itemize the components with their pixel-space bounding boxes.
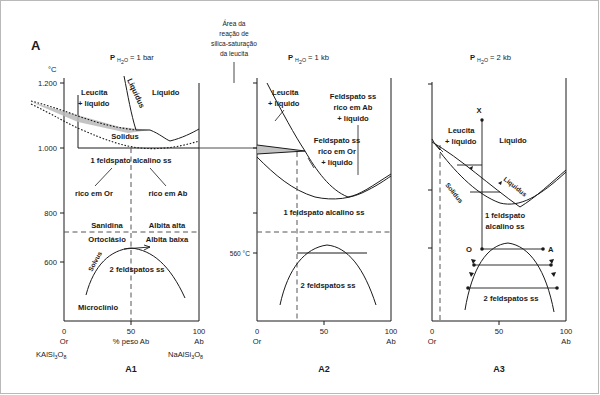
a2-label-fsp-ab-line1: Feldspato ss — [330, 92, 376, 101]
a2-caption: A2 — [318, 364, 330, 374]
a3-x-left-label-or: Or — [428, 337, 437, 346]
top-note-line-4: da leucita — [220, 50, 249, 57]
a1-y-tick-label-800: 800 — [44, 209, 57, 218]
a2-label-fsp-or-line2: rico em Or — [318, 147, 356, 156]
a2-pressure-title: P H 2 O = 1 kb — [288, 53, 329, 65]
a1-label-solidus: Solidus — [111, 132, 138, 141]
a2-pressure-sub-o: O — [302, 57, 306, 63]
a1-label-sanidina: Sanidina — [91, 221, 123, 230]
a3-tie4-left-point — [466, 286, 470, 290]
a3-label-two-feldspars: 2 feldspatos ss — [484, 294, 539, 303]
a3-x-right-label-ab: Ab — [561, 337, 570, 346]
a1-x-tick-label-100: 100 — [193, 327, 206, 336]
a3-x-tick-label-0: 0 — [430, 327, 434, 336]
a3-label-point-x: X — [476, 106, 481, 115]
a1-formula-ab-text: NaAlSi3O8 — [168, 350, 203, 360]
a1-label-ortoclasio: Ortoclásio — [88, 235, 126, 244]
a1-formula-or-text: KAlSi3O8 — [36, 350, 66, 360]
a2-label-leucita-line1: Leucita — [272, 88, 299, 97]
a1-label-albita-baixa: Albita baixa — [146, 235, 189, 244]
a1-label-rico-or: rico em Or — [75, 189, 113, 198]
a3-pressure-p: P — [470, 53, 475, 62]
a1-label-rico-ab: rico em Ab — [149, 189, 188, 198]
a3-x-tick-label-100: 100 — [560, 327, 573, 336]
a1-label-liquidus: Liquidus — [125, 77, 147, 109]
a2-leader-leucita — [275, 110, 284, 121]
a3-arrow-left-down-2 — [469, 272, 474, 277]
a3-pressure-value: = 2 kb — [490, 53, 511, 62]
a3-x-ticks: 0 50 100 Or Ab — [428, 321, 573, 346]
a1-caption: A1 — [125, 364, 137, 374]
a1-label-liquido: Líquido — [152, 88, 180, 97]
a2-label-fsp-ab-line2: rico em Ab — [334, 103, 373, 112]
figure-label: A — [31, 38, 41, 53]
a2-x-tick-label-50: 50 — [320, 327, 328, 336]
a3-label-one-feldspar-line2: alcalino ss — [486, 222, 525, 231]
a2-x-tick-label-100: 100 — [385, 327, 398, 336]
a2-label-fsp-or-line1: Feldspato ss — [314, 136, 360, 145]
a2-label-two-feldspars: 2 feldspatos ss — [301, 281, 356, 290]
a3-x-tick-label-50: 50 — [495, 327, 503, 336]
a1-label-leucita-line1: Leucita — [81, 88, 108, 97]
a1-leader-rico-or — [95, 168, 112, 186]
top-note-line-1: Área da — [222, 19, 245, 27]
phase-diagram-figure: A Área da reação de silica-saturação da … — [0, 0, 600, 395]
top-note-line-2: reação de — [219, 30, 249, 38]
a3-pressure-sub-o: O — [484, 57, 488, 63]
a1-pressure-value: = 1 bar — [130, 53, 154, 62]
a3-tie4-right-point — [555, 286, 559, 290]
a3-tie3-right-point — [549, 263, 553, 267]
a3-liquidus-curve — [432, 142, 566, 207]
panel-a2: P H 2 O = 1 kb 560 °C 0 50 100 — [230, 53, 398, 374]
a3-pressure-title: P H 2 O = 2 kb — [470, 53, 511, 65]
a3-arrow-right-down-2 — [551, 272, 556, 277]
panel-a1: P H 2 O = 1 bar °C 1.200 1.000 800 600 — [31, 53, 205, 374]
a2-solvus-curve — [280, 245, 376, 305]
a2-temp-marker: 560 °C — [230, 250, 250, 257]
a3-arrow-left-down-1 — [471, 259, 476, 264]
a3-label-liquidus: Liquidus — [502, 175, 529, 198]
a2-leader-fsp-or — [308, 158, 314, 168]
a2-label-fsp-ab-line3: + líquido — [337, 114, 369, 123]
a3-label-one-feldspar-line1: 1 feldspato — [485, 211, 525, 220]
a2-x-right-label-ab: Ab — [386, 337, 395, 346]
a3-label-leucita-line1: Leucita — [448, 126, 475, 135]
a1-label-two-feldspars: 2 feldspatos ss — [110, 265, 165, 274]
a3-label-leucita-line2: + líquido — [445, 137, 477, 146]
a1-x-tick-label-0: 0 — [62, 327, 66, 336]
a2-label-one-feldspar: 1 feldspato alcalino ss — [283, 208, 364, 217]
diagram-canvas: A Área da reação de silica-saturação da … — [0, 0, 600, 395]
a1-pressure-p: P — [110, 53, 115, 62]
a1-formula-ab: NaAlSi3O8 — [168, 350, 203, 360]
top-note-line-3: silica-saturação — [211, 40, 257, 48]
top-note: Área da reação de silica-saturação da le… — [211, 19, 257, 83]
a1-liquidus-minimum — [136, 129, 199, 141]
a3-tie3-left-point — [472, 263, 476, 267]
a3-point-o-marker — [480, 247, 484, 251]
a1-y-tick-label-1000: 1.000 — [38, 144, 57, 153]
a3-label-point-o: O — [466, 245, 472, 254]
a1-y-tick-label-1200: 1.200 — [38, 79, 57, 88]
a1-label-leucita-line2: + líquido — [78, 99, 110, 108]
a3-arrow-liquidus — [498, 181, 502, 185]
a1-leader-rico-ab — [150, 168, 166, 186]
a3-caption: A3 — [493, 364, 505, 374]
a3-y-ticks — [428, 84, 432, 248]
a3-point-a-marker — [541, 247, 545, 251]
a1-pressure-sub-o: O — [124, 57, 128, 63]
a3-arrow-right-down-1 — [549, 259, 554, 264]
a3-label-liquido: Líquido — [499, 136, 527, 145]
a2-pressure-value: = 1 kb — [308, 53, 329, 62]
panel-a3: P H 2 O = 2 kb 0 50 100 Or Ab — [428, 53, 573, 374]
a2-x-tick-label-0: 0 — [255, 327, 259, 336]
a1-label-microclinio: Microclínio — [78, 303, 118, 312]
a2-y-ticks: 560 °C — [230, 83, 257, 257]
a2-label-leucita-line2: + líquido — [268, 99, 300, 108]
a3-label-solidus: Solidus — [444, 181, 464, 204]
a1-label-solvus: Solvus — [87, 250, 103, 273]
a1-x-ticks: 0 50 100 Or Ab % peso Ab — [60, 321, 206, 346]
a1-x-axis-title: % peso Ab — [113, 337, 149, 346]
a2-x-left-label-or: Or — [253, 337, 262, 346]
a1-temp-unit: °C — [48, 65, 57, 74]
a1-x-left-label-or: Or — [60, 337, 69, 346]
